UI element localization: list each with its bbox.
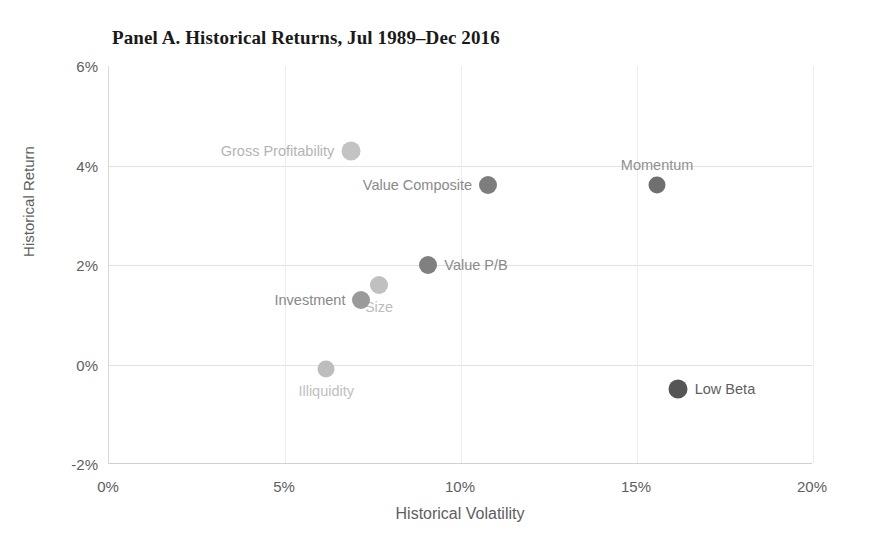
y-axis-tick-labels: 6%4%2%0%-2% [36,66,98,464]
y-axis-tick-label: 2% [42,257,98,274]
data-point-label: Momentum [621,157,694,173]
gridline-vertical [813,66,814,463]
data-point [341,141,360,160]
y-axis-tick-label: 4% [42,157,98,174]
x-axis-tick-label: 0% [97,478,119,495]
data-point-label: Value Composite [363,177,472,193]
y-axis-tick-label: -2% [42,456,98,473]
data-points-layer: Gross ProfitabilityValue CompositeMoment… [108,66,812,464]
x-axis-tick-label: 10% [445,478,475,495]
x-axis-title: Historical Volatility [108,505,812,523]
chart-figure: Panel A. Historical Returns, Jul 1989–De… [0,0,872,557]
data-point [370,276,388,294]
data-point-label: Low Beta [695,381,755,397]
data-point [669,380,688,399]
data-point [479,176,497,194]
y-axis-tick-label: 6% [42,58,98,75]
data-point-label: Illiquidity [298,383,354,399]
data-point-label: Value P/B [444,257,507,273]
x-axis-tick-label: 15% [621,478,651,495]
data-point [352,291,370,309]
data-point-label: Investment [275,292,346,308]
y-axis-tick-label: 0% [42,356,98,373]
chart-title: Panel A. Historical Returns, Jul 1989–De… [112,27,500,49]
x-axis-tick-labels: 0%5%10%15%20% [108,478,812,500]
data-point [318,361,335,378]
y-axis-title: Historical Return [20,112,37,292]
data-point [419,256,437,274]
data-point [649,177,666,194]
x-axis-tick-label: 20% [797,478,827,495]
data-point-label: Gross Profitability [221,143,335,159]
x-axis-tick-label: 5% [273,478,295,495]
